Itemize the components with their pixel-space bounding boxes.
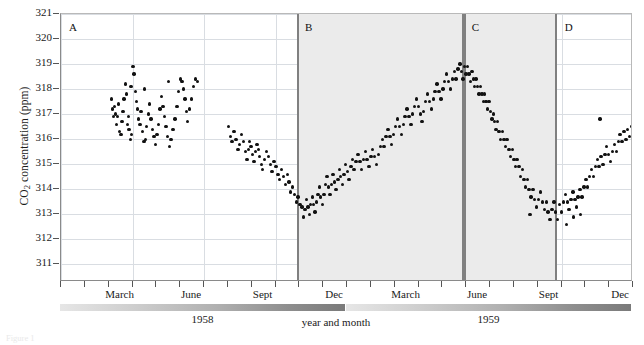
data-point (331, 173, 334, 176)
data-point (147, 112, 150, 115)
x-axis-tick-mark (394, 281, 395, 287)
data-point (296, 195, 299, 198)
x-axis-tick-mark (227, 281, 228, 287)
data-point (338, 168, 341, 171)
data-point (138, 123, 141, 126)
y-axis-tick-label: 317 (26, 107, 52, 118)
data-point (280, 168, 283, 171)
x-axis-tick-mark (513, 281, 514, 287)
data-point (276, 173, 279, 176)
y-axis-tick-label: 313 (26, 207, 52, 218)
data-point (196, 80, 199, 83)
data-point (365, 158, 368, 161)
data-point (134, 90, 137, 93)
region-label-d: D (565, 21, 573, 33)
data-point (120, 120, 123, 123)
data-point (322, 193, 325, 196)
y-axis-tick-mark (53, 213, 59, 214)
data-point (164, 125, 167, 128)
data-point (274, 165, 277, 168)
x-axis-tick-mark (537, 281, 538, 287)
data-point (588, 175, 591, 178)
data-point (622, 130, 625, 133)
data-point (400, 133, 403, 136)
y-axis-tick-label: 318 (26, 82, 52, 93)
data-point (245, 158, 248, 161)
data-point (341, 183, 344, 186)
data-point (439, 97, 442, 100)
data-point (596, 158, 599, 161)
data-point (258, 155, 261, 158)
data-point (560, 210, 563, 213)
vertical-gridline (133, 14, 134, 280)
data-point (151, 128, 154, 131)
data-point (155, 133, 158, 136)
data-point (554, 210, 557, 213)
data-point (139, 110, 142, 113)
data-point (599, 155, 602, 158)
data-point (135, 100, 138, 103)
data-point (186, 120, 189, 123)
data-point (505, 138, 508, 141)
data-point (129, 85, 132, 88)
data-point (590, 168, 593, 171)
x-axis-tick-mark (489, 281, 490, 287)
data-point (628, 135, 631, 138)
data-point (548, 218, 551, 221)
data-point (521, 168, 524, 171)
data-point (229, 135, 232, 138)
data-point (321, 203, 324, 206)
x-axis-tick-label: March (376, 288, 436, 300)
x-axis-tick-mark (632, 281, 633, 287)
y-axis-tick-label: 315 (26, 157, 52, 168)
data-point (168, 145, 171, 148)
y-axis-tick-label: 320 (26, 32, 52, 43)
x-axis-tick-mark (418, 281, 419, 287)
x-axis-tick-mark (608, 281, 609, 287)
y-axis-tick-mark (53, 238, 59, 239)
data-point (125, 92, 128, 95)
data-point (144, 138, 147, 141)
x-axis-tick-mark (346, 281, 347, 287)
data-point (121, 110, 124, 113)
data-point (347, 178, 350, 181)
data-point (240, 133, 243, 136)
data-point (377, 153, 380, 156)
x-axis-tick-mark (155, 281, 156, 287)
x-axis-tick-label: June (447, 288, 507, 300)
data-point (381, 138, 384, 141)
data-point (461, 77, 464, 80)
y-axis-tick-mark (53, 38, 59, 39)
data-point (611, 150, 614, 153)
data-point (546, 210, 549, 213)
data-point (248, 140, 251, 143)
data-point (313, 210, 316, 213)
data-point (115, 123, 118, 126)
data-point (260, 163, 263, 166)
data-point (131, 65, 134, 68)
x-axis-tick-mark (370, 281, 371, 287)
y-axis-tick-label: 321 (26, 7, 52, 18)
x-axis-tick-mark (441, 281, 442, 287)
x-axis-ticks (60, 281, 632, 288)
data-point (552, 200, 555, 203)
data-point (342, 173, 345, 176)
x-axis-tick-mark (251, 281, 252, 287)
data-point (566, 200, 569, 203)
data-point (263, 158, 266, 161)
data-point (163, 115, 166, 118)
data-point (110, 97, 113, 100)
x-axis-tick-label: Dec (590, 288, 644, 300)
y-axis-tick-mark (53, 113, 59, 114)
data-point (291, 185, 294, 188)
data-point (157, 123, 160, 126)
data-point (511, 148, 514, 151)
data-point (609, 160, 612, 163)
data-point (149, 117, 152, 120)
vertical-gridline (61, 14, 62, 280)
data-point (474, 77, 477, 80)
y-axis-tick-mark (53, 188, 59, 189)
data-point (124, 82, 127, 85)
data-point (230, 140, 233, 143)
data-point (435, 82, 438, 85)
